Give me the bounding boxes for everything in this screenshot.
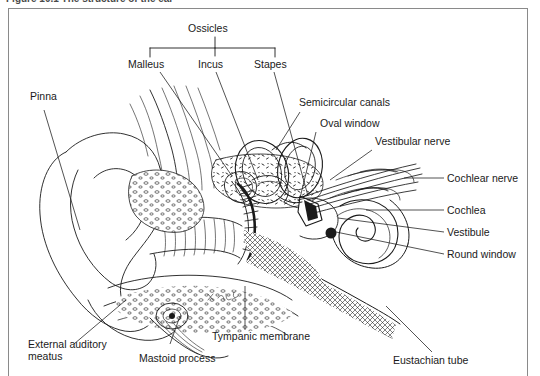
- round-window: [326, 228, 337, 239]
- label-pinna: Pinna: [30, 90, 57, 102]
- label-malleus: Malleus: [128, 58, 164, 70]
- label-incus: Incus: [198, 58, 223, 70]
- leader-vestibular-nerve: [330, 150, 372, 180]
- ear-anatomy-artwork: [0, 0, 540, 376]
- label-vestibule: Vestibule: [447, 226, 490, 238]
- cochlear-nerve-fibres: [312, 182, 418, 213]
- label-round-window: Round window: [447, 248, 516, 260]
- label-ossicles: Ossicles: [188, 22, 228, 34]
- mastoid-bone-texture: [129, 170, 204, 232]
- label-vestibular-nerve: Vestibular nerve: [375, 135, 450, 147]
- label-eustachian-tube: Eustachian tube: [393, 354, 468, 366]
- label-tympanic-membrane: Tympanic membrane: [212, 330, 310, 342]
- label-cochlear-nerve: Cochlear nerve: [447, 172, 518, 184]
- label-oval-window: Oval window: [320, 117, 380, 129]
- stapes-bone: [298, 196, 322, 226]
- label-cochlea: Cochlea: [447, 204, 486, 216]
- leader-semicircular-canals: [276, 112, 300, 150]
- label-external-auditory-meatus: External auditory meatus: [28, 338, 124, 362]
- lower-skull-bone-texture: [116, 286, 294, 334]
- label-semicircular-canals: Semicircular canals: [299, 96, 390, 108]
- label-stapes: Stapes: [254, 58, 287, 70]
- ear-structure-figure: Figure 10.1 The structure of the ear: [0, 0, 540, 376]
- ossicles-bracket: [150, 37, 275, 57]
- leader-pinna: [44, 110, 80, 230]
- label-mastoid-process: Mastoid process: [139, 352, 215, 364]
- leader-malleus: [160, 72, 232, 176]
- leader-vestibule: [338, 218, 444, 232]
